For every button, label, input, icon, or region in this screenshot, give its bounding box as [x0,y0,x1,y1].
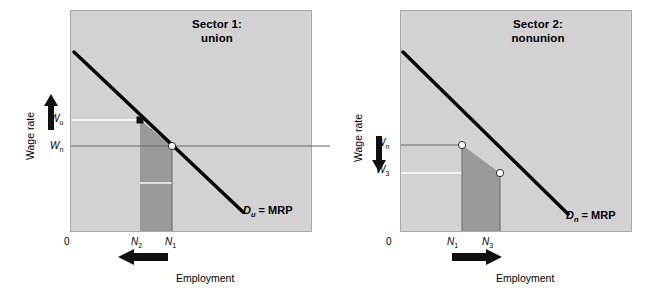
marker-wu-n2 [137,117,144,124]
marker-w3-n3 [496,169,503,176]
graphics-union [0,0,330,291]
region-shape-e [462,173,500,231]
marker-wn-n1-union [168,142,175,149]
employment-direction-arrow-right [452,249,502,265]
marker-wn-n1-nonunion [458,141,465,148]
wage-direction-arrow-down [370,136,386,172]
panel-sector-union: Sector 1: union Wage rate Employment 0 W… [0,0,330,291]
employment-direction-arrow-left [118,249,168,265]
region-shape-b [140,146,172,183]
region-shape-d [462,145,500,173]
panel-sector-nonunion: Sector 2: nonunion Wage rate Employment … [330,0,651,291]
graphics-nonunion [330,0,651,291]
region-shape-c [140,183,172,231]
wage-direction-arrow-up [44,94,58,130]
